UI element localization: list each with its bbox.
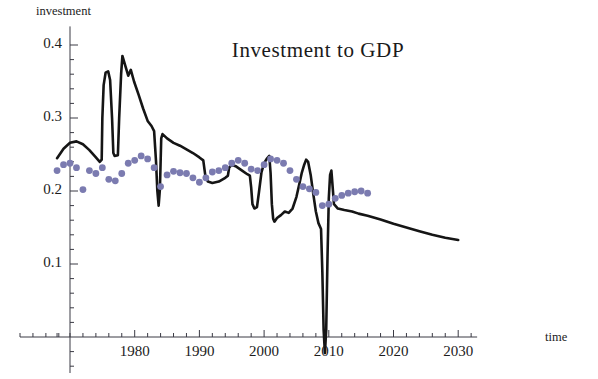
axis-ticks xyxy=(20,45,471,366)
y-axis-label: investment xyxy=(36,4,91,19)
data-point xyxy=(306,185,313,192)
data-series xyxy=(54,56,459,353)
data-point xyxy=(254,167,261,174)
x-tick-label: 2020 xyxy=(363,343,425,360)
x-tick-label: 1980 xyxy=(104,343,166,360)
data-point xyxy=(351,188,358,195)
data-point xyxy=(280,160,287,167)
data-point xyxy=(196,179,203,186)
data-point xyxy=(312,189,319,196)
data-point xyxy=(190,174,197,181)
data-point xyxy=(131,157,138,164)
data-point xyxy=(105,176,112,183)
data-point xyxy=(99,164,106,171)
data-point xyxy=(60,161,67,168)
data-point xyxy=(112,177,119,184)
data-point xyxy=(300,183,307,190)
data-point xyxy=(67,160,74,167)
data-point xyxy=(164,172,171,179)
data-point xyxy=(151,164,158,171)
data-point xyxy=(325,201,332,208)
data-point xyxy=(144,155,151,162)
data-point xyxy=(319,202,326,209)
data-point xyxy=(183,170,190,177)
x-axis-label: time xyxy=(545,330,567,345)
data-point xyxy=(92,170,99,177)
data-point xyxy=(274,157,281,164)
data-point xyxy=(338,192,345,199)
data-point xyxy=(235,157,242,164)
data-point xyxy=(332,195,339,202)
x-tick-label: 2030 xyxy=(427,343,489,360)
data-point xyxy=(261,161,268,168)
data-point xyxy=(287,167,294,174)
data-point xyxy=(209,169,216,176)
data-point xyxy=(118,170,125,177)
data-point xyxy=(170,168,177,175)
x-tick-label: 2000 xyxy=(233,343,295,360)
investment-to-gdp-chart: Investment to GDP investment time 0.10.2… xyxy=(0,0,598,379)
series-line-model-line xyxy=(57,56,458,353)
data-point xyxy=(241,160,248,167)
y-tick-label: 0.2 xyxy=(18,181,62,198)
data-point xyxy=(222,164,229,171)
data-point xyxy=(248,166,255,173)
data-point xyxy=(73,164,80,171)
data-point xyxy=(364,190,371,197)
x-tick-label: 2010 xyxy=(298,343,360,360)
data-point xyxy=(177,169,184,176)
data-point xyxy=(215,167,222,174)
data-point xyxy=(138,153,145,160)
data-point xyxy=(267,155,274,162)
x-tick-label: 1990 xyxy=(168,343,230,360)
axes-group xyxy=(20,26,477,373)
data-point xyxy=(228,160,235,167)
data-point xyxy=(358,188,365,195)
data-point xyxy=(345,190,352,197)
chart-title: Investment to GDP xyxy=(198,38,438,63)
data-point xyxy=(54,167,61,174)
data-point xyxy=(157,183,164,190)
data-point xyxy=(80,186,87,193)
y-tick-label: 0.3 xyxy=(18,108,62,125)
data-point xyxy=(202,174,209,181)
y-tick-label: 0.1 xyxy=(18,254,62,271)
y-tick-label: 0.4 xyxy=(18,35,62,52)
data-point xyxy=(125,160,132,167)
data-point xyxy=(293,176,300,183)
data-point xyxy=(86,167,93,174)
